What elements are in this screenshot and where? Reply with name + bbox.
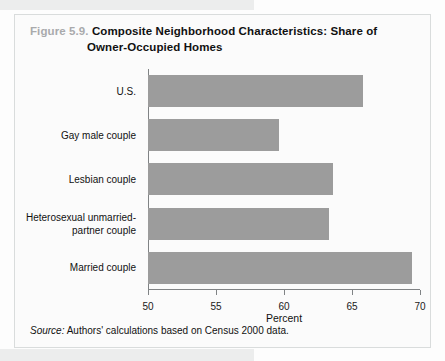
- source-note-text: Authors' calculations based on Census 20…: [67, 325, 289, 336]
- figure-title-line-1: Figure 5.9. Composite Neighborhood Chara…: [30, 23, 420, 39]
- x-axis-tick-label: 50: [142, 301, 153, 312]
- figure-title-text-1: Composite Neighborhood Characteristics: …: [92, 25, 377, 37]
- bar-slot: [148, 157, 420, 201]
- scan-edge-band-top: [0, 0, 254, 10]
- bar: [148, 119, 279, 151]
- category-label-line: partner couple: [26, 224, 136, 237]
- bar-slot: [148, 69, 420, 113]
- category-label-slot: Gay male couple: [15, 113, 142, 157]
- bar-slot: [148, 202, 420, 246]
- source-note-lead: Source:: [30, 325, 64, 336]
- scan-edge-band-bottom: [0, 349, 254, 361]
- bar: [148, 252, 412, 284]
- category-label-slot: Heterosexual unmarried-partner couple: [15, 202, 142, 246]
- x-axis-tick: [420, 290, 421, 295]
- bar-series: [148, 69, 420, 290]
- bar: [148, 75, 363, 107]
- figure-panel: Figure 5.9. Composite Neighborhood Chara…: [14, 14, 431, 348]
- category-label: Heterosexual unmarried-partner couple: [26, 211, 142, 237]
- x-axis-tick: [216, 290, 217, 295]
- bar-slot: [148, 113, 420, 157]
- category-label: Married couple: [70, 261, 142, 274]
- category-label-line: Married couple: [70, 261, 136, 274]
- category-label: Gay male couple: [61, 129, 142, 142]
- category-label-slot: Lesbian couple: [15, 157, 142, 201]
- bar-slot: [148, 246, 420, 290]
- x-axis-tick-label: 55: [210, 301, 221, 312]
- bar: [148, 208, 329, 240]
- figure-number: Figure 5.9.: [30, 25, 89, 37]
- category-label-line: Lesbian couple: [69, 173, 136, 186]
- figure-root: Figure 5.9. Composite Neighborhood Chara…: [0, 0, 445, 361]
- x-axis-tick: [352, 290, 353, 295]
- bar: [148, 163, 333, 195]
- figure-title-line-2: Owner-Occupied Homes: [30, 39, 420, 55]
- figure-title: Figure 5.9. Composite Neighborhood Chara…: [30, 23, 420, 55]
- x-axis-tick: [284, 290, 285, 295]
- plot-area: 5055606570: [148, 69, 420, 290]
- category-axis-labels: U.S.Gay male coupleLesbian coupleHeteros…: [15, 69, 142, 290]
- x-axis-tick: [148, 290, 149, 295]
- x-axis-tick-label: 60: [278, 301, 289, 312]
- category-label-slot: Married couple: [15, 246, 142, 290]
- category-label-line: Gay male couple: [61, 129, 136, 142]
- category-label: Lesbian couple: [69, 173, 142, 186]
- category-label: U.S.: [117, 85, 142, 98]
- x-axis-tick-label: 70: [414, 301, 425, 312]
- source-note: Source: Authors' calculations based on C…: [30, 325, 289, 336]
- category-label-line: U.S.: [117, 85, 136, 98]
- category-label-line: Heterosexual unmarried-: [26, 211, 136, 224]
- x-axis-tick-label: 65: [346, 301, 357, 312]
- category-label-slot: U.S.: [15, 69, 142, 113]
- x-axis-title: Percent: [148, 312, 420, 324]
- bar-chart: U.S.Gay male coupleLesbian coupleHeteros…: [15, 55, 432, 315]
